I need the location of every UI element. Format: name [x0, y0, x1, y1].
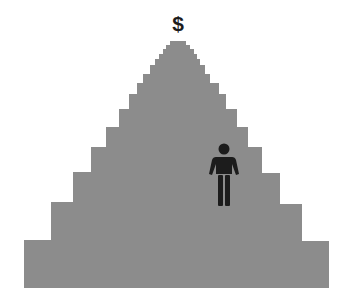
- stepped-pyramid: [0, 0, 351, 308]
- pyramid-shape: [24, 41, 329, 288]
- pyramid-diagram: $: [0, 0, 351, 308]
- dollar-sign-icon: $: [168, 13, 188, 35]
